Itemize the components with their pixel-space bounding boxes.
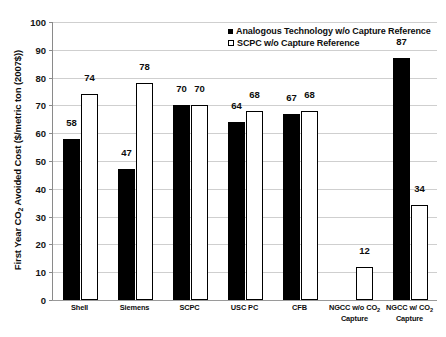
x-label-subscript: 2 <box>430 307 433 313</box>
bar[interactable] <box>411 205 428 300</box>
bar[interactable] <box>356 267 373 300</box>
bar-value-label: 70 <box>176 83 187 94</box>
y-axis-tick-label: 100 <box>30 17 46 28</box>
bar-slot: 78 <box>136 22 153 300</box>
legend-label: SCPC w/o Capture Reference <box>237 38 359 48</box>
legend-item[interactable]: Analogous Technology w/o Capture Referen… <box>228 25 443 37</box>
y-axis-tick-label: 90 <box>35 44 46 55</box>
y-axis-title-subscript: 2 <box>17 208 24 212</box>
x-axis-category-label: NGCC w/o CO2Capture <box>327 303 382 323</box>
bar-value-label: 70 <box>194 83 205 94</box>
y-axis-title: First Year CO2 Avoided Cost ($/metric to… <box>10 10 26 310</box>
x-axis-labels: ShellSiemensSCPCUSC PCCFBNGCC w/o CO2Cap… <box>52 303 437 323</box>
bar-slot <box>338 22 355 300</box>
bar-group: 7070 <box>162 22 217 300</box>
bar-slot: 58 <box>63 22 80 300</box>
bar[interactable] <box>228 122 245 300</box>
co2-avoided-cost-bar-chart: First Year CO2 Avoided Cost ($/metric to… <box>0 0 446 337</box>
y-axis-tick-label: 0 <box>41 295 46 306</box>
bar-group: 5874 <box>52 22 107 300</box>
x-label-subscript: 2 <box>377 307 380 313</box>
y-axis-title-pre: First Year CO <box>12 211 23 270</box>
bar-slot: 47 <box>118 22 135 300</box>
bar[interactable] <box>136 83 153 300</box>
bar-value-label: 68 <box>249 89 260 100</box>
bar-value-label: 68 <box>304 89 315 100</box>
bar[interactable] <box>283 114 300 300</box>
x-axis-category-label: Shell <box>52 303 107 323</box>
bar-slot: 70 <box>191 22 208 300</box>
y-axis-title-post: Avoided Cost ($/metric ton (2007$)) <box>12 50 23 208</box>
bar[interactable] <box>393 58 410 300</box>
y-axis-tick-label: 50 <box>35 156 46 167</box>
y-axis-tick-label: 30 <box>35 211 46 222</box>
bar-group: 12 <box>327 22 382 300</box>
y-axis-tick-label: 40 <box>35 183 46 194</box>
x-axis-category-label: Siemens <box>107 303 162 323</box>
bar-value-label: 74 <box>84 72 95 83</box>
chart-legend: Analogous Technology w/o Capture Referen… <box>228 25 443 49</box>
x-axis-category-label: USC PC <box>217 303 272 323</box>
y-axis-tick-label: 60 <box>35 128 46 139</box>
bar-slot: 74 <box>81 22 98 300</box>
bar-slot: 68 <box>246 22 263 300</box>
bar-group: 6468 <box>217 22 272 300</box>
bar-slot: 64 <box>228 22 245 300</box>
bar-slot: 12 <box>356 22 373 300</box>
x-label-text: Capture <box>396 314 423 323</box>
y-axis-tick-label: 20 <box>35 239 46 250</box>
bar[interactable] <box>191 105 208 300</box>
bar-value-label: 64 <box>231 100 242 111</box>
bar-slot: 70 <box>173 22 190 300</box>
x-axis-category-label: NGCC w/ CO2Capture <box>382 303 437 323</box>
bar-value-label: 58 <box>66 117 77 128</box>
x-axis-category-label: CFB <box>272 303 327 323</box>
bar[interactable] <box>81 94 98 300</box>
y-axis-tick-label: 80 <box>35 72 46 83</box>
bar-value-label: 34 <box>414 183 425 194</box>
bar[interactable] <box>63 139 80 300</box>
bar[interactable] <box>246 111 263 300</box>
bar[interactable] <box>173 105 190 300</box>
bar-slot: 87 <box>393 22 410 300</box>
bar-value-label: 47 <box>121 147 132 158</box>
bar-slot: 68 <box>301 22 318 300</box>
x-axis-category-label: SCPC <box>162 303 217 323</box>
legend-swatch-icon <box>228 29 233 34</box>
legend-item[interactable]: SCPC w/o Capture Reference <box>228 37 443 49</box>
bar-group: 6768 <box>272 22 327 300</box>
x-label-text: Capture <box>341 314 368 323</box>
bar-groups: 58744778707064686768128734 <box>52 22 437 300</box>
bar-group: 4778 <box>107 22 162 300</box>
bar-value-label: 67 <box>286 92 297 103</box>
legend-label: Analogous Technology w/o Capture Referen… <box>236 26 431 36</box>
bar-group: 8734 <box>382 22 437 300</box>
bar[interactable] <box>118 169 135 300</box>
y-axis-tick-label: 70 <box>35 100 46 111</box>
bar-slot: 67 <box>283 22 300 300</box>
x-label-text: NGCC w/ CO <box>386 303 430 312</box>
y-axis-tick-label: 10 <box>35 267 46 278</box>
bar[interactable] <box>301 111 318 300</box>
x-axis-line <box>52 300 437 301</box>
bar-slot: 34 <box>411 22 428 300</box>
x-label-text: NGCC w/o CO <box>329 303 377 312</box>
legend-swatch-icon <box>228 40 234 46</box>
bar-value-label: 78 <box>139 61 150 72</box>
bar-value-label: 12 <box>359 245 370 256</box>
